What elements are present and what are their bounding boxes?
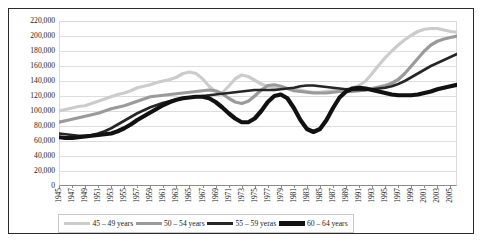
x-axis-tick-label: 1945 [55,188,62,203]
x-axis-tick-label: 1955 [120,188,127,203]
y-axis-tick-label: 180,000 [30,47,55,55]
y-axis-tick-label: 20,000 [34,167,55,175]
y-axis-tick-label: 160,000 [30,62,55,70]
x-axis-tick-label: 1949 [81,188,88,203]
series-lines [59,21,457,186]
x-axis-tick-label: 1969 [212,188,219,203]
y-axis-tick-label: 200,000 [30,32,55,40]
x-axis-tick-label: 1997 [394,188,401,203]
y-axis-tick-label: 220,000 [30,17,55,25]
chart-figure: 020,00040,00060,00080,000100,000120,0001… [8,8,474,234]
x-axis-tick-label: 1951 [94,188,101,203]
x-axis-tick-label: 1989 [342,188,349,203]
x-axis-tick-label: 1967 [199,188,206,203]
x-axis-tick-label: 2001 [420,188,427,203]
x-axis-tick-label: 1947 [68,188,75,203]
x-axis-tick-label: 1965 [185,188,192,203]
y-axis-tick-label: 60,000 [34,137,55,145]
legend-swatch [207,222,233,225]
x-axis-tick-label: 1959 [146,188,153,203]
x-axis-tick-label: 1957 [133,188,140,203]
x-axis-tick-label: 1977 [264,188,271,203]
x-axis-tick-label: 1993 [368,188,375,203]
legend-label: 45 – 49 years [92,219,133,228]
y-axis-tick-label: 120,000 [30,92,55,100]
legend-item: 50 – 54 years [136,219,205,228]
x-axis-tick-label: 1971 [225,188,232,203]
x-axis-tick-label: 1979 [277,188,284,203]
x-axis-tick-label: 1983 [303,188,310,203]
x-axis-tick-label: 1973 [238,188,245,203]
y-axis-tick-label: 40,000 [34,152,55,160]
legend-label: 60 – 64 years [307,219,348,228]
legend-swatch [64,222,90,225]
chart-legend: 45 – 49 years50 – 54 years55 – 59 yeras6… [58,214,354,233]
x-axis-tick-label: 1999 [407,188,414,203]
x-axis-tick-label: 1995 [381,188,388,203]
y-axis-tick-label: 100,000 [30,107,55,115]
y-axis-tick-label: 140,000 [30,77,55,85]
x-axis-tick-label: 1987 [329,188,336,203]
x-axis-tick-label: 1981 [290,188,297,203]
legend-swatch [279,221,305,225]
plot-area [59,21,457,186]
series-line [59,29,457,112]
legend-item: 60 – 64 years [279,219,348,228]
y-axis: 020,00040,00060,00080,000100,000120,0001… [9,9,59,186]
x-axis-tick-label: 1975 [251,188,258,203]
legend-item: 45 – 49 years [64,219,133,228]
legend-label: 55 – 59 yeras [235,219,276,228]
x-axis-tick-label: 1953 [107,188,114,203]
legend-item: 55 – 59 yeras [207,219,276,228]
legend-swatch [136,222,162,225]
x-axis-tick-label: 1963 [172,188,179,203]
x-axis-tick-label: 1961 [159,188,166,203]
x-axis-tick-label: 2003 [433,188,440,203]
y-axis-tick-label: 80,000 [34,122,55,130]
x-axis-tick-label: 1985 [316,188,323,203]
legend-label: 50 – 54 years [164,219,205,228]
x-axis-tick-label: 2005 [446,188,453,203]
x-axis-tick-label: 1991 [355,188,362,203]
series-line [59,36,457,122]
